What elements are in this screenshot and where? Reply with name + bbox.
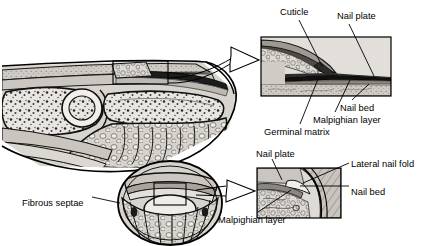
label-lateral-nail-fold: Lateral nail fold xyxy=(351,160,414,169)
leader-fibrous-septae xyxy=(92,197,120,203)
nail-anatomy-figure: Cuticle Nail plate Nail bed Malpighian l… xyxy=(0,0,433,246)
label-nail-plate-bottom: Nail plate xyxy=(256,150,295,159)
cross-section-finger xyxy=(118,161,222,246)
label-nail-bed-bottom: Nail bed xyxy=(351,188,385,197)
label-nail-plate-top: Nail plate xyxy=(337,12,376,21)
label-malpighian-layer-top: Malpighian layer xyxy=(313,116,381,125)
sagittal-finger-section xyxy=(2,58,238,172)
label-fibrous-septae: Fibrous septae xyxy=(22,199,84,208)
inset-panel-bottom xyxy=(257,168,341,218)
inset-panel-top xyxy=(261,37,391,96)
label-cuticle: Cuticle xyxy=(280,8,308,17)
label-malpighian-layer-bottom: Malpighian layer xyxy=(218,216,286,225)
label-nail-bed-top: Nail bed xyxy=(340,104,374,113)
label-germinal-matrix: Germinal matrix xyxy=(264,128,330,137)
